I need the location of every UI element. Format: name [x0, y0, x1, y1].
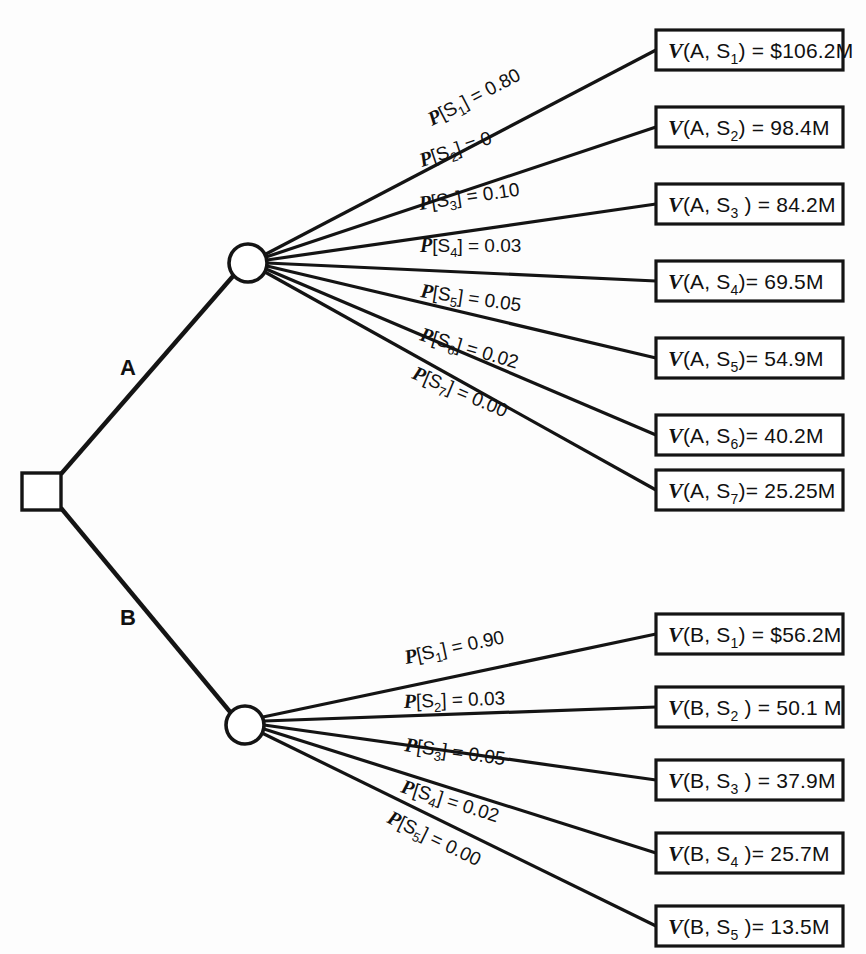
- payoff-tail-A-S3: ) = 84.2M: [739, 193, 836, 216]
- prob-value-A-S7: 0.00: [469, 387, 511, 421]
- prob-sub-A-S4: 4: [450, 245, 457, 260]
- payoff-sub-B-S2: 2: [731, 708, 739, 724]
- payoff-tail-A-S6: )= 40.2M: [739, 424, 824, 447]
- branch-A-payoff-boxes: V(A, S1) = $106.2M V(A, S2) = 98.4M V(A,…: [656, 30, 853, 510]
- edge-root-to-B: [61, 508, 231, 713]
- payoff-sub-A-S1: 1: [731, 51, 739, 67]
- prob-label-A-S3: P[S3] = 0.10: [416, 178, 521, 218]
- payoff-node-A-S7[interactable]: V(A, S7)= 25.25M: [656, 470, 843, 510]
- prob-value-B-S2: 0.03: [468, 687, 506, 709]
- payoff-node-A-S1[interactable]: V(A, S1) = $106.2M: [656, 30, 853, 70]
- payoff-node-A-S4[interactable]: V(A, S4)= 69.5M: [656, 261, 843, 301]
- payoff-node-A-S6[interactable]: V(A, S6)= 40.2M: [656, 415, 843, 455]
- payoff-tail-B-S3: ) = 37.9M: [739, 769, 836, 792]
- payoff-sub-A-S5: 5: [731, 359, 739, 375]
- chance-node-B[interactable]: [226, 706, 264, 744]
- branch-label-B: B: [120, 605, 136, 630]
- decision-tree-diagram: A B P[S1] = 0.80 P[S2] = 0 P[S3] = 0.10: [0, 0, 866, 954]
- chance-node-A[interactable]: [229, 244, 267, 282]
- payoff-sub-B-S5: 5: [731, 927, 739, 943]
- payoff-node-A-S2[interactable]: V(A, S2) = 98.4M: [656, 107, 843, 147]
- prob-value-A-S4: 0.03: [484, 235, 521, 256]
- payoff-tail-A-S1: ) = $106.2M: [739, 39, 854, 62]
- prob-label-B-S3: P[S3] = 0.05: [402, 733, 507, 773]
- prob-value-B-S1: 0.90: [465, 626, 506, 654]
- main-edges: [61, 275, 234, 713]
- prob-label-A-S7: P[S7] = 0.00: [407, 361, 511, 425]
- payoff-tail-B-S4: )= 25.7M: [739, 842, 830, 865]
- prob-value-B-S4: 0.02: [460, 795, 502, 826]
- payoff-sub-A-S3: 3: [731, 205, 739, 221]
- payoff-sub-A-S4: 4: [731, 282, 739, 298]
- tree-canvas: A B P[S1] = 0.80 P[S2] = 0 P[S3] = 0.10: [0, 0, 866, 954]
- prob-value-A-S1: 0.80: [481, 64, 524, 100]
- prob-value-B-S3: 0.05: [467, 743, 507, 769]
- payoff-tail-A-S4: )= 69.5M: [739, 270, 824, 293]
- prob-label-A-S1: P[S1] = 0.80: [423, 63, 526, 133]
- prob-value-A-S6: 0.02: [480, 342, 521, 373]
- payoff-sub-B-S3: 3: [731, 781, 739, 797]
- branch-B-prob-labels: P[S1] = 0.90 P[S2] = 0.03 P[S3] = 0.05 P…: [382, 625, 507, 873]
- payoff-sub-A-S7: 7: [731, 491, 739, 507]
- prob-label-A-S2: P[S2] = 0: [415, 126, 495, 175]
- prob-label-B-S1: P[S1] = 0.90: [401, 625, 506, 672]
- payoff-tail-A-S5: )= 54.9M: [739, 347, 824, 370]
- branch-label-A: A: [120, 355, 136, 380]
- prob-label-A-S4: P[S4] = 0.03: [419, 234, 521, 260]
- payoff-sub-A-S6: 6: [731, 436, 739, 452]
- payoff-sub-B-S4: 4: [731, 854, 739, 870]
- payoff-node-B-S1[interactable]: V(B, S1) = $56.2M: [656, 614, 843, 654]
- payoff-tail-B-S5: )= 13.5M: [739, 915, 830, 938]
- prob-value-A-S3: 0.10: [481, 179, 521, 205]
- payoff-tail-B-S1: ) = $56.2M: [739, 623, 842, 646]
- prob-value-A-S5: 0.05: [483, 289, 523, 315]
- payoff-tail-A-S2: ) = 98.4M: [739, 116, 830, 139]
- root-decision-node[interactable]: [22, 473, 61, 510]
- payoff-node-B-S5[interactable]: V(B, S5 )= 13.5M: [656, 906, 843, 946]
- payoff-sub-B-S1: 1: [731, 635, 739, 651]
- payoff-tail-B-S2: ) = 50.1 M: [739, 696, 842, 719]
- payoff-node-B-S4[interactable]: V(B, S4 )= 25.7M: [656, 833, 843, 873]
- payoff-node-A-S5[interactable]: V(A, S5)= 54.9M: [656, 338, 843, 378]
- branch-B-payoff-boxes: V(B, S1) = $56.2M V(B, S2 ) = 50.1 M V(B…: [656, 614, 843, 946]
- payoff-node-B-S2[interactable]: V(B, S2 ) = 50.1 M: [656, 687, 843, 727]
- edge-root-to-A: [61, 275, 234, 474]
- payoff-sub-A-S2: 2: [731, 128, 739, 144]
- payoff-node-A-S3[interactable]: V(A, S3 ) = 84.2M: [656, 184, 843, 224]
- payoff-node-B-S3[interactable]: V(B, S3 ) = 37.9M: [656, 760, 843, 800]
- payoff-tail-A-S7: )= 25.25M: [739, 479, 836, 502]
- branch-B-edges: [262, 634, 656, 926]
